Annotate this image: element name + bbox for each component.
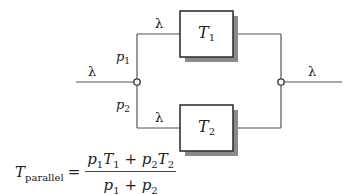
formula-numerator: p1T1 + p2T2	[85, 150, 176, 172]
server-2-label: T2	[198, 119, 215, 135]
output-rate-label: λ	[308, 65, 316, 78]
parallel-time-formula: Tparallel = p1T1 + p2T2 p1 + p2	[15, 150, 176, 194]
merge-junction	[278, 79, 284, 85]
top-branch-rate-label: λ	[155, 17, 163, 30]
formula-lhs: Tparallel	[15, 163, 64, 181]
split-junction	[134, 79, 140, 85]
server-1-label: T1	[198, 25, 215, 41]
input-rate-label: λ	[88, 65, 96, 78]
p2-label: p2	[116, 98, 130, 111]
formula-denominator: p1 + p2	[104, 172, 158, 194]
formula-equals: =	[68, 163, 81, 181]
p1-label: p1	[116, 50, 130, 63]
formula-fraction: p1T1 + p2T2 p1 + p2	[85, 150, 176, 194]
bottom-branch-rate-label: λ	[155, 111, 163, 124]
